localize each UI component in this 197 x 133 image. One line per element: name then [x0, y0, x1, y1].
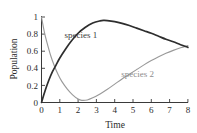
- x-tick-label-6: 6: [149, 105, 154, 115]
- x-tick-label-8: 8: [186, 105, 191, 115]
- y-tick-label-4: 0.8: [27, 29, 39, 39]
- x-axis-title: Time: [105, 120, 125, 130]
- series-annotation-species-1: species 1: [64, 30, 97, 40]
- chart-canvas: 0 0.2 0.4 0.6 0.8 1 0 1 2 3 4 5 6 7 8 Po…: [0, 0, 197, 133]
- y-axis-title: Population: [9, 38, 19, 79]
- x-tick-label-0: 0: [39, 105, 44, 115]
- population-dynamics-chart: 0 0.2 0.4 0.6 0.8 1 0 1 2 3 4 5 6 7 8 Po…: [0, 0, 197, 133]
- y-tick-label-3: 0.6: [27, 46, 39, 56]
- x-tick-label-5: 5: [131, 105, 136, 115]
- y-tick-label-2: 0.4: [27, 63, 39, 73]
- x-tick-label-4: 4: [112, 105, 117, 115]
- y-tick-label-5: 1: [34, 12, 39, 22]
- series-line-species-2: [42, 17, 188, 100]
- x-axis-ticks: [42, 99, 188, 103]
- x-tick-label-3: 3: [94, 105, 99, 115]
- series-annotation-species-2: species 2: [121, 69, 154, 79]
- series-line-species-1: [42, 20, 188, 102]
- x-tick-label-2: 2: [76, 105, 81, 115]
- y-tick-label-0: 0: [34, 98, 39, 108]
- x-tick-label-1: 1: [58, 105, 63, 115]
- x-tick-label-7: 7: [167, 105, 172, 115]
- y-tick-label-1: 0.2: [27, 81, 38, 91]
